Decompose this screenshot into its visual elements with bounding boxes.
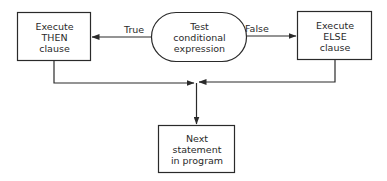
test-expression-node: Test conditional expression — [152, 13, 247, 62]
else-line-1: Execute — [316, 20, 354, 31]
then-line-3: clause — [36, 43, 74, 54]
false-label: False — [245, 23, 269, 34]
else-line-3: clause — [316, 42, 354, 53]
next-line-3: in program — [171, 155, 223, 166]
next-line-2: statement — [171, 144, 223, 155]
then-line-2: THEN — [36, 32, 74, 43]
else-to-merge-line — [199, 60, 335, 82]
then-line-1: Execute — [36, 21, 74, 32]
test-line-2: conditional — [173, 32, 225, 43]
next-line-1: Next — [171, 133, 223, 144]
test-line-1: Test — [173, 21, 225, 32]
else-clause-node: Execute ELSE clause — [298, 12, 372, 60]
else-line-2: ELSE — [316, 31, 354, 42]
true-label: True — [124, 24, 144, 35]
then-clause-node: Execute THEN clause — [18, 13, 91, 61]
next-statement-node: Next statement in program — [159, 126, 235, 173]
test-line-3: expression — [173, 43, 225, 54]
then-to-merge-line — [54, 61, 194, 83]
